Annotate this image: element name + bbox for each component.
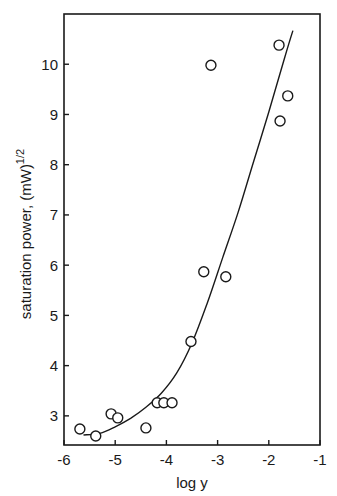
data-point-marker <box>206 60 216 70</box>
plot-frame <box>64 14 320 445</box>
x-tick-label: -3 <box>211 451 224 468</box>
y-axis-label-exponent: 1/2 <box>14 149 26 164</box>
x-tick-label: -1 <box>313 451 326 468</box>
y-tick-label: 5 <box>50 307 58 324</box>
y-axis-ticks: 345678910 <box>41 56 69 425</box>
data-point-marker <box>75 424 85 434</box>
data-points <box>75 40 293 441</box>
x-tick-label: -5 <box>109 451 122 468</box>
data-point-marker <box>274 40 284 50</box>
data-point-marker <box>221 272 231 282</box>
x-tick-label: -2 <box>262 451 275 468</box>
x-tick-label: -4 <box>160 451 173 468</box>
svg-text:saturation power, (mW)1/2: saturation power, (mW)1/2 <box>14 149 34 319</box>
data-point-marker <box>199 267 209 277</box>
y-tick-label: 8 <box>50 156 58 173</box>
fit-curve <box>84 31 293 435</box>
y-tick-label: 10 <box>41 56 58 73</box>
x-tick-label: -6 <box>57 451 70 468</box>
data-point-marker <box>275 116 285 126</box>
data-point-marker <box>141 423 151 433</box>
chart: -6-5-4-3-2-1 345678910 log y saturation … <box>0 0 337 496</box>
data-point-marker <box>283 91 293 101</box>
data-point-marker <box>186 337 196 347</box>
y-axis-label: saturation power, (mW)1/2 <box>14 149 34 319</box>
y-tick-label: 3 <box>50 407 58 424</box>
data-point-marker <box>91 431 101 441</box>
data-point-marker <box>113 413 123 423</box>
y-axis-label-main: saturation power, (mW) <box>17 164 34 319</box>
x-axis-label: log y <box>176 474 208 491</box>
y-tick-label: 4 <box>50 357 58 374</box>
y-tick-label: 6 <box>50 257 58 274</box>
y-tick-label: 9 <box>50 106 58 123</box>
data-point-marker <box>167 398 177 408</box>
y-tick-label: 7 <box>50 206 58 223</box>
